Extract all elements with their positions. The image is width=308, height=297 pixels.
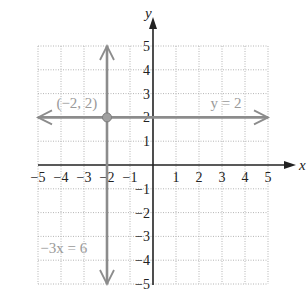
intersection-point — [103, 113, 112, 122]
y-tick-label: −5 — [135, 277, 150, 292]
annotation-label: −3x = 6 — [40, 240, 87, 256]
y-axis-label: y — [143, 5, 152, 21]
y-tick-label: −1 — [135, 182, 150, 197]
x-axis-arrow-icon — [284, 161, 296, 169]
annotation-label: y = 2 — [211, 95, 242, 111]
x-tick-label: −4 — [54, 170, 69, 185]
x-tick-label: −3 — [77, 170, 92, 185]
y-tick-label: −4 — [135, 253, 150, 268]
x-tick-label: 5 — [265, 170, 272, 185]
x-axis-label: x — [298, 157, 306, 173]
points — [103, 113, 112, 122]
y-tick-label: −2 — [135, 206, 150, 221]
x-tick-label: 4 — [242, 170, 249, 185]
y-tick-label: 4 — [143, 63, 150, 78]
x-tick-label: 3 — [219, 170, 226, 185]
annotation-label: (−2, 2) — [56, 95, 97, 112]
y-tick-label: −3 — [135, 229, 150, 244]
y-tick-label: 5 — [143, 39, 150, 54]
x-tick-label: 2 — [196, 170, 203, 185]
y-tick-label: 1 — [143, 134, 150, 149]
y-tick-label: 3 — [143, 87, 150, 102]
x-tick-label: −5 — [31, 170, 46, 185]
coordinate-plane: −5−4−3−2−11234554321−1−2−3−4−5 (−2, 2)y … — [0, 0, 308, 297]
x-tick-label: 1 — [173, 170, 180, 185]
